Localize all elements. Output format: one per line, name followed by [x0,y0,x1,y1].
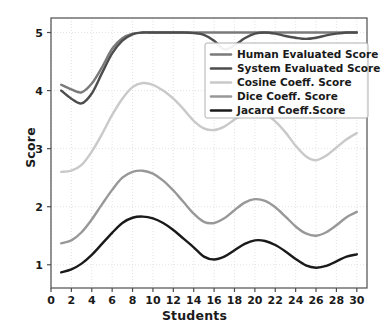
chart-figure: 02468101214161820222426283012345 Human E… [0,0,389,331]
svg-text:6: 6 [108,294,116,307]
svg-text:0: 0 [47,294,55,307]
svg-text:22: 22 [268,294,283,307]
x-axis-label: Students [0,308,389,323]
svg-text:8: 8 [129,294,137,307]
svg-text:5: 5 [35,27,43,40]
svg-text:26: 26 [308,294,324,307]
svg-text:4: 4 [88,294,96,307]
svg-text:2: 2 [68,294,76,307]
svg-text:16: 16 [206,294,222,307]
svg-text:28: 28 [329,294,344,307]
svg-text:14: 14 [186,294,202,307]
svg-text:30: 30 [349,294,365,307]
legend-label-0: Human Evaluated Score [237,48,378,60]
svg-text:10: 10 [145,294,161,307]
legend-label-2: Cosine Coeff. Score [237,76,352,88]
svg-text:4: 4 [35,85,43,98]
svg-text:2: 2 [35,201,43,214]
svg-text:24: 24 [288,294,304,307]
line-chart: 02468101214161820222426283012345 Human E… [0,0,389,331]
legend-label-3: Dice Coeff. Score [237,90,338,102]
legend-label-1: System Evaluated Score [237,62,380,74]
svg-text:1: 1 [35,259,43,272]
legend-label-4: Jacard Coeff.Score [236,104,346,116]
svg-text:20: 20 [247,294,263,307]
svg-text:18: 18 [227,294,242,307]
y-axis-label: Score [23,108,38,188]
svg-text:12: 12 [166,294,181,307]
chart-legend: Human Evaluated ScoreSystem Evaluated Sc… [205,43,380,118]
